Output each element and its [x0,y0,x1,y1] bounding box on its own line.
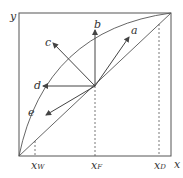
xw-label: xW [31,160,44,171]
arrow-e [46,86,95,115]
mccabe-thiele-diagram [0,0,183,178]
xd-label: xD [154,160,166,171]
arrow-c-label: c [45,37,51,48]
arrow-c [53,43,95,86]
arrow-e-label: e [28,107,35,118]
y-axis-label: y [10,11,16,22]
arrow-a [95,37,129,86]
x-axis-label: x [174,159,180,170]
xf-label: xF [91,160,102,171]
arrow-d-label: d [34,80,41,91]
arrow-a-label: a [131,25,138,36]
arrow-b-label: b [94,19,101,30]
